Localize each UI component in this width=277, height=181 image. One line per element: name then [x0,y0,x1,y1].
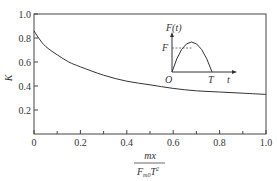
x-tick-label: 0.2 [74,137,87,148]
x-tick-label: 0 [32,137,37,148]
plot-frame [34,14,266,134]
y-tick-label: 0.6 [19,57,32,68]
x-label-numerator: mx [144,150,156,161]
y-axis-label: K [3,73,14,82]
inset-pulse-diagram: F(t) F O T t [161,22,237,85]
chart: 00.20.40.60.81.0 0.20.40.60.81.0 K mx Fm… [0,0,277,181]
inset-end-label: T [208,74,215,85]
inset-peak-label: F [161,42,169,53]
inset-origin-label: O [165,74,172,85]
y-tick-label: 0.2 [19,105,32,116]
y-tick-label: 0.4 [19,81,32,92]
y-tick-label: 1.0 [19,9,32,20]
k-curve-line [34,31,266,95]
inset-x-arrow-icon [232,70,237,74]
inset-pulse-curve [172,42,212,72]
x-tick-label: 0.6 [167,137,180,148]
x-tick-label: 0.4 [121,137,134,148]
x-tick-label: 0.8 [213,137,226,148]
x-label-denominator: Fm0T2 [136,166,159,178]
x-tick-label: 1.0 [260,137,273,148]
inset-x-label: t [227,74,230,85]
inset-y-label: F(t) [165,22,182,34]
y-tick-label: 0.8 [19,33,32,44]
